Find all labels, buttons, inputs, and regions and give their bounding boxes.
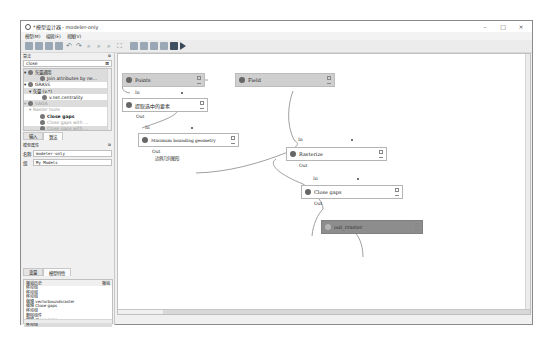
node-field[interactable]: Field	[235, 73, 335, 87]
model-canvas[interactable]: Points Field In 提取选中的要素 Out In Minimum b…	[117, 53, 531, 315]
port-dot	[351, 139, 353, 141]
zoom-actual-icon[interactable]: ⌕	[105, 42, 113, 50]
tab-algorithms[interactable]: 算法	[43, 132, 63, 140]
edit-icon[interactable]	[327, 76, 331, 80]
model-properties-title: 模型属性	[23, 142, 39, 148]
delete-icon[interactable]	[395, 195, 399, 196]
search-value: close	[26, 61, 38, 66]
scrollbar-thumb[interactable]	[118, 310, 163, 314]
algorithm-tree: ▾矢量通用 Join attributes by ne... ▾GRASS ▾矢…	[23, 68, 112, 131]
port-out-extract: Out	[136, 114, 144, 119]
delete-icon[interactable]	[415, 230, 419, 231]
properties-icon[interactable]	[170, 42, 178, 50]
canvas-horizontal-scrollbar[interactable]	[118, 309, 530, 314]
port-in-extract: In	[135, 90, 140, 95]
open-model-icon[interactable]	[25, 42, 33, 50]
maximize-button[interactable]: □	[494, 23, 512, 30]
menu-bar: 模型(M) 编辑(E) 视图(V)	[21, 32, 532, 40]
window-title: *模型设计器 - modeler-only	[33, 23, 98, 30]
menu-model[interactable]: 模型(M)	[25, 33, 40, 39]
saga-icon	[40, 114, 45, 119]
port-in-rasterize: In	[298, 137, 303, 142]
save-model-icon[interactable]	[35, 42, 43, 50]
run-model-icon[interactable]	[180, 42, 186, 50]
edit-icon[interactable]	[197, 76, 201, 80]
model-group-field[interactable]: My Models	[33, 159, 112, 166]
history-item[interactable]: 移动组	[24, 323, 112, 328]
node-label: Close gaps	[314, 189, 342, 195]
node-rasterize[interactable]: Rasterize	[286, 147, 387, 161]
node-close-gaps[interactable]: Close gaps	[301, 185, 403, 199]
clear-search-icon[interactable]: ⊠	[105, 61, 109, 66]
model-group-label: 组	[23, 160, 33, 166]
bottom-tabs: 变量 模型特性	[23, 268, 71, 276]
edit-icon[interactable]	[379, 150, 383, 154]
zoom-in-icon[interactable]: ⌕	[85, 42, 93, 50]
window-controls: – □ ×	[476, 21, 530, 32]
node-label: Field	[248, 77, 261, 83]
delete-icon[interactable]	[197, 83, 201, 84]
save-as-icon[interactable]	[45, 42, 53, 50]
delete-icon[interactable]	[231, 143, 235, 144]
zoom-out-icon[interactable]: ⌕	[95, 42, 103, 50]
undo-history-panel: 撤销历史 撤销 移动组 移动组 移动组 编辑 vectorboundsraste…	[23, 279, 113, 324]
port-in-mbg: In	[145, 125, 150, 130]
port-in-close-gaps: In	[313, 176, 318, 181]
saga-icon	[28, 101, 33, 106]
export-script-icon[interactable]	[160, 42, 168, 50]
export-icon[interactable]	[55, 42, 63, 50]
zoom-full-icon[interactable]: ⛶	[115, 42, 123, 50]
menu-view[interactable]: 视图(V)	[67, 33, 82, 39]
gear-icon	[40, 76, 45, 81]
edit-icon[interactable]	[395, 188, 399, 192]
delete-icon[interactable]	[200, 108, 204, 109]
node-minimum-bounding-geometry[interactable]: Minimum bounding geometry	[138, 133, 239, 147]
output-icon	[325, 224, 331, 230]
redo-icon[interactable]: ↷	[75, 42, 83, 50]
export-svg-icon[interactable]	[150, 42, 158, 50]
panel-float-icon[interactable]: ⧉	[108, 53, 111, 59]
edit-icon[interactable]	[415, 223, 419, 227]
edit-icon[interactable]	[200, 101, 204, 105]
node-out-raster[interactable]: out_rraster	[321, 220, 423, 234]
tab-inputs[interactable]: 输入	[23, 132, 43, 140]
model-name-field[interactable]: modeler-only	[33, 150, 112, 157]
algorithm-icon	[290, 151, 296, 157]
panel-float-icon[interactable]: ⧉	[108, 142, 111, 148]
algorithms-panel-header: 算法 ⧉	[21, 53, 114, 59]
node-label: out_rraster	[334, 224, 362, 230]
delete-icon[interactable]	[379, 157, 383, 158]
gear-icon	[28, 70, 33, 75]
search-input[interactable]: close ⊠	[23, 60, 112, 67]
tab-model-properties[interactable]: 模型特性	[43, 268, 71, 276]
edit-icon[interactable]	[231, 136, 235, 140]
history-scrollbar[interactable]	[24, 319, 112, 323]
export-image-icon[interactable]	[130, 42, 138, 50]
saga-icon	[40, 120, 45, 125]
node-label: Minimum bounding geometry	[151, 138, 216, 143]
export-pdf-icon[interactable]	[140, 42, 148, 50]
port-out-rasterize: Out	[299, 163, 307, 168]
algorithm-icon	[126, 102, 132, 108]
canvas-vertical-scrollbar[interactable]	[525, 54, 530, 314]
title-bar: *模型设计器 - modeler-only – □ ×	[21, 21, 532, 32]
toolbar-separator	[125, 42, 128, 50]
model-properties-panel: 模型属性 ⧉ 名称 modeler-only 组 My Models	[21, 142, 114, 166]
grass-icon	[28, 82, 33, 87]
close-button[interactable]: ×	[512, 23, 530, 30]
undo-button[interactable]: 撤销	[102, 280, 110, 286]
port-dot	[191, 127, 193, 129]
minimize-button[interactable]: –	[476, 23, 494, 30]
node-points[interactable]: Points	[122, 73, 205, 87]
qgis-logo-icon	[25, 24, 31, 30]
model-properties-header: 模型属性 ⧉	[21, 142, 114, 148]
undo-icon[interactable]: ↶	[65, 42, 73, 50]
node-extract-selected[interactable]: 提取选中的要素	[122, 98, 208, 112]
delete-icon[interactable]	[327, 83, 331, 84]
model-name-row: 名称 modeler-only	[23, 150, 112, 157]
tree-scrollbar[interactable]	[107, 69, 111, 130]
tab-variables[interactable]: 变量	[23, 268, 43, 276]
menu-edit[interactable]: 编辑(E)	[46, 33, 60, 39]
left-panel: 算法 ⧉ close ⊠ ▾矢量通用 Join attributes by ne…	[21, 53, 115, 325]
tree-item-close-gaps-with-2[interactable]: Close gaps with ...	[24, 126, 111, 131]
